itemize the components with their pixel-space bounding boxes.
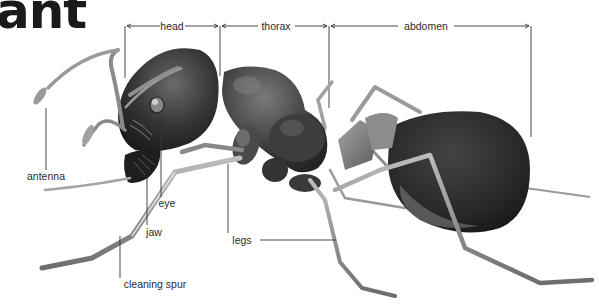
label-head: head <box>160 20 184 32</box>
label-legs: legs <box>232 234 251 246</box>
label-abdomen: abdomen <box>404 20 448 32</box>
label-thorax: thorax <box>261 20 291 32</box>
label-jaw: jaw <box>145 226 162 238</box>
ant-diagram: head thorax abdomen <box>0 0 599 306</box>
label-cleaning-spur: cleaning spur <box>124 278 187 290</box>
label-antenna: antenna <box>27 170 65 182</box>
label-eye: eye <box>159 197 176 209</box>
ant-illustration <box>31 48 592 296</box>
